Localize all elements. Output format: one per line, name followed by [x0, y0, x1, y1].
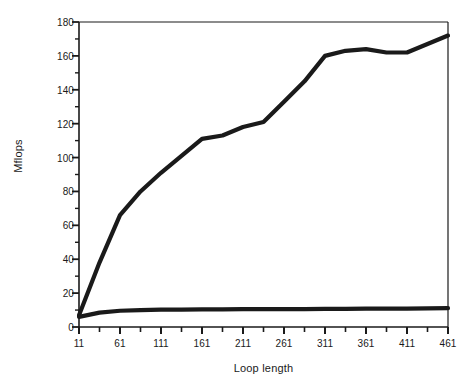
- x-axis-tick-label: 361: [346, 338, 386, 349]
- x-axis-tick-label: 11: [59, 338, 99, 349]
- x-axis-tick-label: 111: [141, 338, 181, 349]
- x-axis-tick-label: 61: [100, 338, 140, 349]
- x-axis-tick-label: 461: [428, 338, 468, 349]
- series-line-lower-curve: [79, 308, 448, 317]
- x-axis-tick-label: 161: [182, 338, 222, 349]
- data-series-group: [79, 36, 448, 317]
- series-line-upper-curve: [79, 36, 448, 316]
- plot-area: [0, 0, 469, 391]
- axes-group: [72, 22, 448, 334]
- x-axis-tick-label: 211: [223, 338, 263, 349]
- x-axis-tick-label: 311: [305, 338, 345, 349]
- x-axis-tick-label: 261: [264, 338, 304, 349]
- x-axis-tick-label: 411: [387, 338, 427, 349]
- mflops-loop-length-chart: 020406080100120140160180 Mflops Loop len…: [0, 0, 469, 391]
